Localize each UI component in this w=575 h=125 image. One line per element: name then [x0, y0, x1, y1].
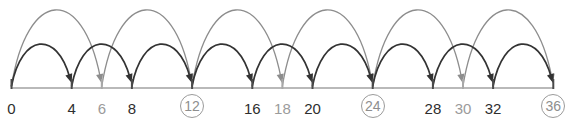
axis-group [12, 79, 554, 89]
tick-label: 8 [128, 101, 136, 116]
tick-label-circled: 12 [180, 94, 204, 118]
jump-arc [373, 10, 463, 86]
tick-label: 20 [304, 101, 321, 116]
tick-label: 28 [425, 101, 442, 116]
jump-arc [192, 10, 282, 86]
tick-label: 30 [455, 101, 472, 116]
jump-arc [463, 10, 553, 86]
tick-label: 0 [7, 101, 15, 116]
tick-label: 32 [485, 101, 502, 116]
jump-arc [102, 10, 192, 86]
tick-label: 4 [68, 101, 76, 116]
tick-label: 16 [244, 101, 261, 116]
tick-label: 18 [274, 101, 291, 116]
tick-label-circled: 36 [541, 94, 565, 118]
jump-arc [282, 10, 372, 86]
number-line-figure: 0468121618202428303236 [0, 0, 575, 125]
tick-label-circled: 24 [361, 94, 385, 118]
jump-arc [12, 10, 102, 86]
tick-label: 6 [98, 101, 106, 116]
